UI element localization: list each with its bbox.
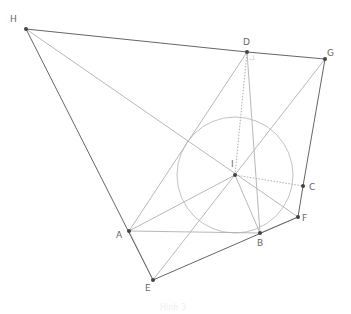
geometry-figure: HDGICFABEHình 3 (0, 0, 351, 314)
segment-DG (247, 52, 325, 59)
label-D: D (243, 37, 250, 47)
segment-AB (129, 231, 260, 233)
label-E: E (145, 283, 151, 293)
segment-DB (247, 52, 260, 233)
point-H (24, 27, 28, 31)
dotted-segment-ID (235, 52, 247, 175)
point-D (245, 50, 249, 54)
segment-IA (129, 175, 235, 231)
label-I: I (231, 159, 234, 169)
segment-EF (153, 217, 298, 280)
segment-HE (26, 29, 153, 280)
label-G: G (327, 48, 334, 58)
point-I (233, 173, 237, 177)
label-B: B (257, 238, 263, 248)
segment-GC (303, 59, 325, 186)
label-A: A (116, 230, 123, 240)
figure-caption: Hình 3 (160, 303, 186, 312)
segment-HF (26, 29, 298, 217)
label-C: C (309, 182, 315, 192)
label-H: H (10, 14, 17, 24)
segment-GE (153, 59, 325, 280)
label-F: F (302, 213, 307, 223)
point-C (301, 184, 305, 188)
point-F (296, 215, 300, 219)
right-angle-mark (249, 55, 254, 60)
point-A (127, 229, 131, 233)
point-E (151, 278, 155, 282)
point-B (258, 231, 262, 235)
geometry-diagram: HDGICFABEHình 3 (0, 0, 351, 314)
segment-HD (26, 29, 247, 52)
